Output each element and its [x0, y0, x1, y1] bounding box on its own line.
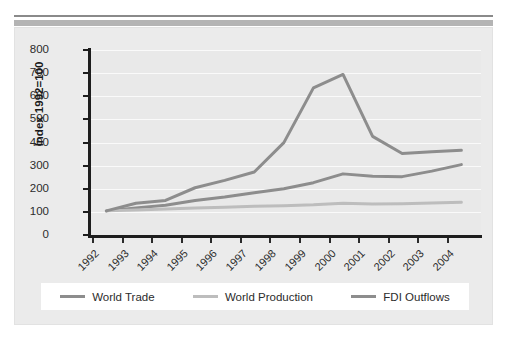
chart-figure: 0100200300400500600700800 19921993199419… — [0, 0, 507, 340]
x-axis-tick — [329, 238, 331, 243]
x-axis-tick — [240, 238, 242, 243]
y-axis-tick — [83, 72, 89, 74]
y-axis-tick-label: 0 — [9, 229, 49, 241]
x-axis-tick — [122, 238, 124, 243]
y-axis-title: Index 1992=100 — [33, 49, 45, 159]
gridline — [89, 166, 481, 167]
chart-panel: 0100200300400500600700800 19921993199419… — [14, 27, 493, 325]
legend-label: FDI Outflows — [383, 291, 449, 303]
x-axis-tick — [417, 238, 419, 243]
x-axis-tick — [181, 238, 183, 243]
y-axis-tick — [83, 118, 89, 120]
x-axis-tick-label: 1997 — [223, 247, 249, 273]
y-axis-tick — [83, 211, 89, 213]
legend-item[interactable]: World Trade — [60, 291, 154, 303]
y-axis-tick-label: 100 — [9, 206, 49, 218]
x-axis-tick-label: 1995 — [164, 247, 190, 273]
gridline — [89, 189, 481, 190]
x-axis-tick-label: 1994 — [134, 247, 160, 273]
x-axis-tick-label: 1996 — [193, 247, 219, 273]
x-axis-tick-label: 2004 — [430, 247, 456, 273]
legend-item[interactable]: FDI Outflows — [351, 291, 449, 303]
x-axis-tick-label: 2002 — [371, 247, 397, 273]
x-axis-tick-label: 2003 — [401, 247, 427, 273]
x-axis-tick — [92, 238, 94, 243]
chart-legend: World TradeWorld ProductionFDI Outflows — [41, 283, 469, 310]
x-axis-tick-label: 1992 — [75, 247, 101, 273]
y-axis-tick-label: 200 — [9, 183, 49, 195]
plot-area — [89, 50, 481, 235]
gridline — [89, 96, 481, 97]
legend-item[interactable]: World Production — [193, 291, 313, 303]
legend-label: World Trade — [92, 291, 154, 303]
x-axis-tick — [447, 238, 449, 243]
x-axis-tick — [269, 238, 271, 243]
gridline — [89, 119, 481, 120]
header-rule-thick — [14, 20, 493, 26]
legend-swatch-icon — [351, 295, 376, 298]
gridline — [89, 50, 481, 51]
x-axis-tick — [299, 238, 301, 243]
x-axis-tick-label: 2000 — [312, 247, 338, 273]
y-axis-tick — [83, 188, 89, 190]
gridline — [89, 212, 481, 213]
legend-label: World Production — [225, 291, 313, 303]
x-axis-tick — [358, 238, 360, 243]
x-axis-tick-label: 1998 — [253, 247, 279, 273]
x-axis-tick-label: 1999 — [282, 247, 308, 273]
header-rule-thin — [14, 15, 493, 17]
y-axis-tick — [83, 142, 89, 144]
x-axis-tick-label: 1993 — [105, 247, 131, 273]
x-axis-tick — [210, 238, 212, 243]
legend-swatch-icon — [193, 295, 218, 298]
x-axis-tick-label: 2001 — [341, 247, 367, 273]
y-axis-tick — [83, 234, 89, 236]
x-axis-tick — [151, 238, 153, 243]
y-axis-tick — [83, 49, 89, 51]
y-axis-tick — [83, 95, 89, 97]
x-axis-tick — [388, 238, 390, 243]
y-axis-tick — [83, 165, 89, 167]
legend-swatch-icon — [60, 295, 85, 298]
x-axis-line — [88, 235, 482, 238]
gridline — [89, 73, 481, 74]
y-axis-tick-label: 300 — [9, 160, 49, 172]
gridline — [89, 143, 481, 144]
